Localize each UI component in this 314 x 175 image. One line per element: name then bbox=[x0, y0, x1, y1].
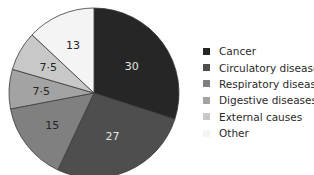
pie-value-label: 30 bbox=[125, 60, 139, 73]
legend-item-respiratory: Respiratory diseases bbox=[203, 76, 314, 92]
pie-value-label: 13 bbox=[66, 39, 80, 52]
pie-chart: 3027157·57·513 bbox=[0, 0, 190, 175]
legend-item-cancer: Cancer bbox=[203, 43, 314, 59]
legend-label: Cancer bbox=[219, 45, 256, 57]
legend-item-circulatory: Circulatory diseases bbox=[203, 59, 314, 75]
legend-swatch bbox=[203, 97, 210, 104]
legend-swatch bbox=[203, 64, 210, 71]
pie-value-label: 7·5 bbox=[39, 61, 57, 74]
pie-value-label: 15 bbox=[45, 119, 59, 132]
legend: Cancer Circulatory diseases Respiratory … bbox=[203, 43, 314, 141]
legend-label: Respiratory diseases bbox=[219, 78, 314, 90]
legend-item-digestive: Digestive diseases bbox=[203, 92, 314, 108]
pie-value-label: 27 bbox=[106, 130, 120, 143]
legend-label: Digestive diseases bbox=[219, 94, 314, 106]
legend-swatch bbox=[203, 113, 210, 120]
legend-item-external: External causes bbox=[203, 109, 314, 125]
legend-swatch bbox=[203, 48, 210, 55]
legend-label: Circulatory diseases bbox=[219, 62, 314, 74]
legend-swatch bbox=[203, 130, 210, 137]
legend-item-other: Other bbox=[203, 125, 314, 141]
legend-label: Other bbox=[219, 127, 249, 139]
legend-swatch bbox=[203, 80, 210, 87]
legend-label: External causes bbox=[219, 111, 302, 123]
pie-value-label: 7·5 bbox=[33, 85, 51, 98]
